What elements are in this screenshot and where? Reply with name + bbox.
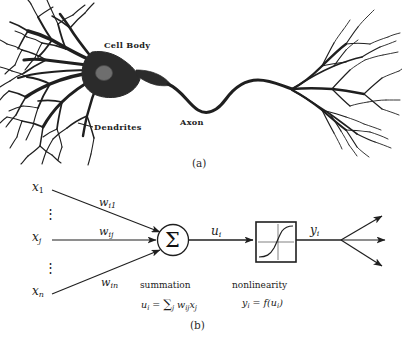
input-label-xj: xj [32, 231, 41, 245]
net-input-subscript: i [219, 230, 222, 239]
weight-label-in: win [101, 277, 118, 290]
summation-title: summation [140, 281, 191, 290]
nonlinearity-formula: yi = f(ui) [242, 298, 283, 310]
fanout-arrow-up [341, 216, 382, 240]
sigma-symbol: Σ [165, 228, 180, 252]
summation-formula: ui = ∑j wijxj [141, 298, 197, 312]
panel-b-model-diagram [0, 0, 402, 346]
net-input-label: ui [211, 225, 221, 239]
weight-subscript-i1: i1 [108, 201, 116, 210]
input-subscript-j: j [39, 236, 41, 245]
input-label-xn: xn [32, 285, 44, 299]
weight-subscript-in: in [110, 281, 118, 290]
weight-subscript-ij: ij [108, 230, 113, 239]
nonlinearity-title: nonlinearity [232, 281, 287, 290]
input-vdots-upper: ⋮ [44, 207, 57, 220]
weight-label-ij: wij [99, 226, 113, 239]
weight-label-i1: wi1 [99, 197, 116, 210]
caption-panel-b: (b) [190, 320, 205, 331]
input-label-x1: x1 [32, 181, 44, 195]
output-subscript: i [317, 229, 320, 238]
neuron-figure: Cell Body Dendrites Axon (a) [0, 0, 402, 346]
input-subscript-n: n [39, 290, 44, 299]
input-vdots-lower: ⋮ [44, 261, 57, 274]
fanout-arrow-down [341, 240, 382, 266]
output-label: yi [310, 224, 319, 238]
input-subscript-1: 1 [39, 186, 44, 195]
